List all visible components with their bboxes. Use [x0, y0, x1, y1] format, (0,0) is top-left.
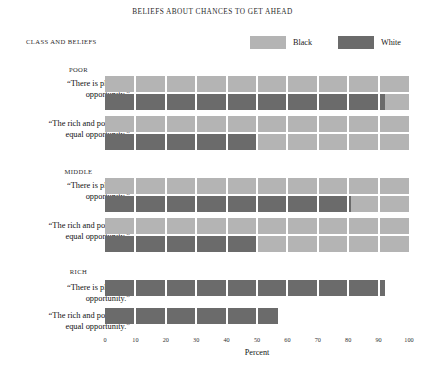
- bar-segment-gutter: [347, 308, 349, 324]
- bar-segment-gutter: [347, 76, 349, 92]
- bar-fill: [105, 134, 257, 150]
- bar-segment-gutter: [226, 236, 228, 252]
- bar-segment-gutter: [165, 308, 167, 324]
- bar-segment-gutter: [195, 178, 197, 194]
- bar-segment-gutter: [256, 178, 258, 194]
- bar-poor-equal-white: [105, 134, 409, 150]
- bar-segment-gutter: [286, 134, 288, 150]
- bar-segment-gutter: [286, 236, 288, 252]
- bar-segment-gutter: [378, 76, 380, 92]
- bar-segment-gutter: [134, 236, 136, 252]
- bar-segment-gutter: [317, 218, 319, 234]
- bar-segment-gutter: [378, 94, 380, 110]
- bar-segment-gutter: [226, 218, 228, 234]
- bar-segment-gutter: [195, 76, 197, 92]
- bar-segment-gutter: [226, 196, 228, 212]
- bar-fill: [105, 196, 351, 212]
- bar-segment-gutter: [134, 178, 136, 194]
- bar-segment-gutter: [347, 236, 349, 252]
- bar-segment-gutter: [317, 280, 319, 296]
- bar-segment-gutter: [165, 94, 167, 110]
- bar-middle-plenty-white: [105, 196, 409, 212]
- bar-segment-gutter: [347, 218, 349, 234]
- x-tick-100: 100: [404, 336, 413, 343]
- bar-segment-gutter: [317, 236, 319, 252]
- bar-segment-gutter: [226, 308, 228, 324]
- bar-segment-gutter: [134, 94, 136, 110]
- bar-poor-equal-black: [105, 116, 409, 132]
- x-tick-40: 40: [224, 336, 230, 343]
- bar-poor-plenty-black: [105, 76, 409, 92]
- bar-segment-gutter: [317, 196, 319, 212]
- x-axis-title: Percent: [105, 348, 409, 357]
- bar-middle-equal-white: [105, 236, 409, 252]
- bar-segment-gutter: [226, 134, 228, 150]
- bar-fill: [105, 94, 385, 110]
- bar-fill: [105, 280, 385, 296]
- bar-segment-gutter: [286, 218, 288, 234]
- class-and-beliefs-header: CLASS AND BELIEFS: [26, 38, 97, 45]
- x-tick-90: 90: [376, 336, 382, 343]
- legend: Black White: [250, 36, 425, 52]
- bar-segment-gutter: [378, 236, 380, 252]
- bar-segment-gutter: [195, 116, 197, 132]
- bar-segment-gutter: [165, 218, 167, 234]
- bar-segment-gutter: [134, 116, 136, 132]
- legend-label-black: Black: [293, 38, 312, 47]
- bar-segment-gutter: [195, 236, 197, 252]
- x-tick-70: 70: [315, 336, 321, 343]
- bar-segment-gutter: [195, 196, 197, 212]
- plot-area: [105, 60, 409, 335]
- bar-middle-plenty-black: [105, 178, 409, 194]
- x-tick-50: 50: [254, 336, 260, 343]
- bar-segment-gutter: [378, 218, 380, 234]
- bar-segment-gutter: [317, 76, 319, 92]
- bar-segment-gutter: [286, 280, 288, 296]
- legend-label-white: White: [381, 38, 401, 47]
- bar-segment-gutter: [134, 134, 136, 150]
- bar-segment-gutter: [347, 116, 349, 132]
- bar-segment-gutter: [286, 178, 288, 194]
- bar-segment-gutter: [317, 308, 319, 324]
- chart-title: BELIEFS ABOUT CHANCES TO GET AHEAD: [0, 7, 425, 16]
- bar-segment-gutter: [378, 134, 380, 150]
- legend-swatch-white: [338, 36, 374, 49]
- bar-segment-gutter: [226, 178, 228, 194]
- bar-segment-gutter: [256, 116, 258, 132]
- bar-segment-gutter: [195, 94, 197, 110]
- bar-segment-gutter: [347, 94, 349, 110]
- bar-segment-gutter: [256, 280, 258, 296]
- bar-segment-gutter: [256, 94, 258, 110]
- bar-segment-gutter: [317, 116, 319, 132]
- bar-segment-gutter: [195, 308, 197, 324]
- bar-segment-gutter: [165, 134, 167, 150]
- bar-middle-equal-black: [105, 218, 409, 234]
- bar-segment-gutter: [378, 308, 380, 324]
- bar-segment-gutter: [195, 218, 197, 234]
- bar-segment-gutter: [317, 94, 319, 110]
- legend-item-white: White: [338, 36, 401, 49]
- bar-segment-gutter: [256, 196, 258, 212]
- bar-rich-equal-white: [105, 308, 409, 324]
- bar-segment-gutter: [286, 308, 288, 324]
- bar-segment-gutter: [256, 218, 258, 234]
- x-tick-10: 10: [132, 336, 138, 343]
- bar-segment-gutter: [347, 280, 349, 296]
- bar-poor-plenty-white: [105, 94, 409, 110]
- x-tick-80: 80: [345, 336, 351, 343]
- bar-rich-plenty-white: [105, 280, 409, 296]
- bar-segment-gutter: [347, 178, 349, 194]
- bar-segment-gutter: [226, 116, 228, 132]
- bar-fill: [105, 236, 257, 252]
- legend-item-black: Black: [250, 36, 312, 49]
- bar-segment-gutter: [256, 76, 258, 92]
- x-tick-30: 30: [193, 336, 199, 343]
- bar-segment-gutter: [286, 116, 288, 132]
- bar-fill: [105, 308, 278, 324]
- bar-segment-gutter: [134, 76, 136, 92]
- bar-segment-gutter: [165, 236, 167, 252]
- bar-segment-gutter: [226, 280, 228, 296]
- bar-segment-gutter: [317, 178, 319, 194]
- bar-segment-gutter: [378, 280, 380, 296]
- bar-segment-gutter: [286, 76, 288, 92]
